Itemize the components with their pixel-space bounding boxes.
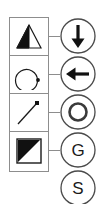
diagonal-line-with-square-endpoint-icon	[14, 98, 44, 128]
rotation-arc-with-dot-icon	[14, 60, 44, 90]
symbol-cell-triangle-half-filled	[10, 18, 48, 56]
badge-letter-g-text: G	[58, 130, 98, 170]
square-upper-left-triangle-filled-icon	[15, 137, 43, 165]
badge-down-arrow	[58, 16, 98, 56]
badge-left-arrow	[58, 54, 98, 94]
triangle-left-half-filled-icon	[14, 23, 44, 51]
badge-letter-s: S	[58, 168, 98, 204]
badge-ring	[58, 92, 98, 132]
symbol-cell-column	[9, 17, 49, 172]
badge-letter-g: G	[58, 130, 98, 170]
badge-letter-s-text: S	[58, 168, 98, 204]
symbol-legend-diagram: G S	[0, 0, 105, 204]
arrow-left-icon	[58, 54, 98, 94]
symbol-cell-square-half-filled	[10, 132, 48, 170]
arrow-down-icon	[58, 16, 98, 56]
symbol-cell-line-with-endpoint	[10, 94, 48, 132]
ring-circle-icon	[58, 92, 98, 132]
symbol-cell-rotation-arc	[10, 56, 48, 94]
